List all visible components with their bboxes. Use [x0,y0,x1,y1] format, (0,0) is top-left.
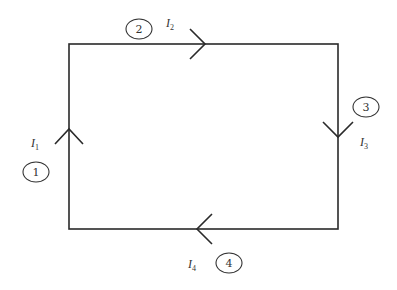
current-label-4: I4 [187,257,196,273]
current-label-1: I1 [30,136,39,152]
current-label-3: I3 [359,135,368,151]
node-number-3: 3 [363,101,370,114]
node-number-4: 4 [226,257,233,270]
branch-1: I1 1 [23,129,83,182]
loop-wire [69,44,338,229]
node-number-2: 2 [136,23,143,36]
current-loop-diagram: I1 1 2 I2 3 I3 I4 4 [0,0,397,290]
branch-4: I4 4 [187,214,242,273]
node-number-1: 1 [33,166,40,179]
branch-2: 2 I2 [126,16,205,59]
branch-3: 3 I3 [323,97,379,151]
current-label-2: I2 [165,16,174,32]
